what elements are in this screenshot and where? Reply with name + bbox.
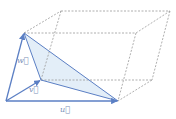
vector-u-label: u⃗ <box>60 105 70 114</box>
edge <box>118 33 136 101</box>
vector-w-label: w⃗ <box>17 56 29 65</box>
vector-w-arrow <box>6 34 24 101</box>
edge <box>118 80 152 101</box>
diagram-stage: w⃗ v⃗ u⃗ <box>0 0 176 119</box>
parallelepiped-diagram: w⃗ v⃗ u⃗ <box>0 0 176 119</box>
edge <box>24 11 61 33</box>
vector-v-label: v⃗ <box>29 85 39 94</box>
